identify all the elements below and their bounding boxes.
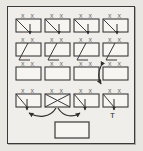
cell-box[interactable] (16, 94, 41, 107)
marks-r2c4: x x (108, 36, 123, 43)
cell-r1c3[interactable] (74, 19, 99, 34)
crossover-arrow-left[interactable] (29, 108, 56, 116)
cell-r2c3[interactable] (74, 43, 99, 60)
cell-r3c2[interactable] (45, 67, 70, 80)
cell-r4c3[interactable] (74, 94, 99, 110)
cell-r1c4[interactable] (103, 19, 128, 34)
marks-r1c4: x x (108, 12, 123, 19)
cell-box[interactable] (16, 19, 41, 32)
bottom-result-box[interactable] (55, 122, 89, 138)
marks-r1c2: x x (50, 12, 65, 19)
marks-r2c1: x x (21, 36, 36, 43)
cell-r1c2[interactable] (45, 19, 70, 34)
row-1-group (16, 19, 128, 34)
diagram-root: x x x x x x x x x x x x x x x x x x x x … (0, 0, 143, 151)
cell-r4c1[interactable] (16, 94, 41, 110)
cell-box[interactable] (74, 94, 99, 107)
cell-box[interactable] (103, 43, 128, 56)
cell-box[interactable] (103, 94, 128, 107)
cell-box[interactable] (45, 43, 70, 56)
crossover-arrow-right[interactable] (58, 108, 80, 116)
cell-r4c2[interactable] (45, 94, 70, 107)
marks-r3c1: x x (21, 60, 36, 67)
cell-box[interactable] (45, 19, 70, 32)
cell-r2c4[interactable] (103, 43, 128, 60)
cell-box[interactable] (16, 43, 41, 56)
marks-r4c2: x x (50, 87, 65, 94)
cell-r3c1[interactable] (16, 67, 41, 80)
cell-r3c4[interactable] (103, 67, 128, 80)
marks-r2c3: x x (79, 36, 94, 43)
label-T: T (110, 112, 115, 120)
marks-r2c2: x x (50, 36, 65, 43)
cell-box[interactable] (74, 43, 99, 56)
cell-r3c3[interactable] (74, 67, 99, 80)
cell-box[interactable] (103, 19, 128, 32)
marks-r3c2: x x (50, 60, 65, 67)
cell-r1c1[interactable] (16, 19, 41, 34)
row-3-group (16, 66, 128, 84)
cell-r4c4[interactable] (103, 94, 128, 110)
cell-box[interactable] (74, 19, 99, 32)
cell-r2c2[interactable] (45, 43, 70, 60)
diagram-stage (0, 0, 143, 151)
diagram-svg (0, 0, 143, 151)
marks-r4c4: x x (108, 87, 123, 94)
marks-r3c4: x x (108, 60, 123, 67)
marks-r4c3: x x (79, 87, 94, 94)
marks-r1c1: x x (21, 12, 36, 19)
crossover-arrows (29, 108, 80, 116)
marks-r1c3: x x (79, 12, 94, 19)
row-4-group (16, 94, 128, 110)
marks-r3c3: x x (79, 60, 94, 67)
marks-r4c1: x x (21, 87, 36, 94)
row-2-group (16, 43, 128, 60)
cell-r2c1[interactable] (16, 43, 41, 60)
